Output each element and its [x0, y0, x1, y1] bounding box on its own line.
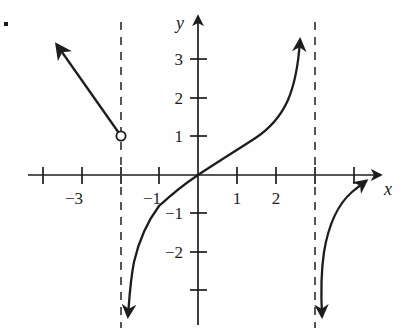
open-circle-point [116, 131, 125, 140]
x-axis-label: x [384, 180, 392, 198]
y-tick-label-3: 3 [167, 51, 183, 68]
x-tick-label-2: 2 [268, 190, 284, 207]
y-axis-label: y [176, 14, 184, 32]
graph-figure: y x −3 −1 1 2 3 2 1 −1 −2 [0, 0, 403, 331]
y-tick-label-minus-2: −2 [159, 244, 183, 261]
y-tick-label-1: 1 [167, 128, 183, 145]
x-tick-label-1: 1 [229, 190, 245, 207]
right-branch-curve [321, 181, 366, 316]
left-ray-segment [57, 45, 121, 136]
left-branch-curve [128, 206, 159, 316]
coordinate-plot [0, 0, 403, 331]
x-tick-label-minus-3: −3 [62, 190, 86, 207]
y-tick-label-minus-1: −1 [159, 205, 183, 222]
y-tick-label-2: 2 [167, 90, 183, 107]
